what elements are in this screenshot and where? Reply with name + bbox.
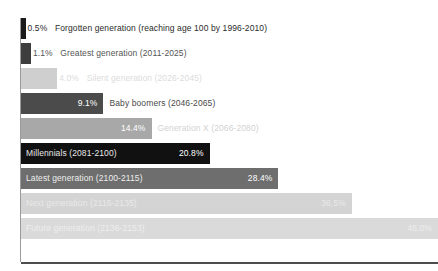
bar-value-label: 14.4% — [21, 118, 146, 139]
x-axis-line — [21, 262, 438, 264]
bar-category-label: Forgotten generation (reaching age 100 b… — [55, 18, 267, 39]
bar-category-label: Future generation (2136-2153) — [26, 218, 145, 239]
bar-category-label: Millennials (2081-2100) — [26, 143, 117, 164]
bar-row: 36.5%Next generation (2116-2135) — [21, 193, 438, 214]
bar-row: 1.1%Greatest generation (2011-2025) — [21, 43, 438, 64]
bar-rect — [21, 18, 26, 39]
bar-row: 46.0%Future generation (2136-2153) — [21, 218, 438, 239]
bar-rect — [21, 43, 31, 64]
bar-value-label: 0.5% — [28, 18, 48, 39]
bar-row: 20.8%Millennials (2081-2100) — [21, 143, 438, 164]
bar-value-label: 1.1% — [33, 43, 53, 64]
bar-category-label: Baby boomers (2046-2065) — [109, 93, 215, 114]
bar-row: 4.0%Silent generation (2026-2045) — [21, 68, 438, 89]
bar-category-label: Next generation (2116-2135) — [26, 193, 137, 214]
bar-value-label: 4.0% — [59, 68, 79, 89]
bar-category-label: Greatest generation (2011-2025) — [60, 43, 186, 64]
plot-area: 0.5%Forgotten generation (reaching age 1… — [0, 0, 438, 271]
generations-bar-chart: 0.5%Forgotten generation (reaching age 1… — [0, 0, 438, 271]
bar-category-label: Silent generation (2026-2045) — [87, 68, 202, 89]
bar-row: 0.5%Forgotten generation (reaching age 1… — [21, 18, 438, 39]
bar-rect — [21, 68, 57, 89]
bar-category-label: Latest generation (2100-2115) — [26, 168, 143, 189]
bar-value-label: 9.1% — [21, 93, 97, 114]
bar-row: 14.4%Generation X (2066-2080) — [21, 118, 438, 139]
bar-category-label: Generation X (2066-2080) — [158, 118, 259, 139]
bar-row: 9.1%Baby boomers (2046-2065) — [21, 93, 438, 114]
bar-row: 28.4%Latest generation (2100-2115) — [21, 168, 438, 189]
